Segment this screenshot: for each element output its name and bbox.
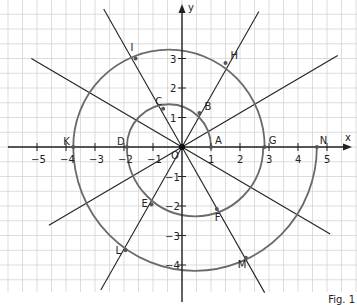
point-label-N: N [320, 135, 327, 146]
point-G [263, 145, 267, 149]
figure-caption: Fig. 1 [328, 294, 355, 305]
point-label-B: B [204, 101, 211, 112]
x-tick-label: −4 [60, 154, 75, 165]
y-tick-label: −2 [165, 201, 180, 212]
y-tick-label: −1 [165, 172, 180, 183]
origin-point [179, 144, 185, 150]
y-tick-label: −4 [165, 260, 180, 271]
y-tick-label: 3 [170, 54, 176, 65]
point-label-D: D [117, 136, 125, 147]
y-tick-label: 1 [170, 113, 176, 124]
point-E [150, 203, 154, 207]
y-axis-label: y [188, 2, 194, 13]
point-label-E: E [142, 198, 148, 209]
point-B [197, 111, 201, 115]
point-L [123, 248, 127, 252]
point-label-C: C [155, 96, 162, 107]
point-label-H: H [231, 50, 239, 61]
y-tick-label: 2 [170, 83, 176, 94]
point-label-M: M [238, 259, 247, 270]
point-A [209, 145, 213, 149]
spiral-diagram: −5−4−3−2−112345321−1−2−3−4 ABCDEFGHIKLMN… [0, 0, 357, 305]
point-F [215, 207, 219, 211]
point-label-A: A [215, 135, 222, 146]
x-tick-label: −5 [31, 154, 46, 165]
point-label-L: L [115, 245, 121, 256]
point-label-K: K [63, 136, 70, 147]
point-label-F: F [215, 212, 221, 223]
x-axis-arrow-icon [343, 144, 352, 151]
x-tick-label: −3 [89, 154, 104, 165]
point-N [315, 145, 319, 149]
ray-60 [182, 12, 259, 147]
x-tick-label: −2 [118, 154, 133, 165]
origin-label: O [171, 150, 179, 161]
point-C [161, 107, 165, 111]
x-tick-label: −1 [147, 154, 162, 165]
x-tick-label: 5 [324, 154, 330, 165]
y-axis-arrow-icon [179, 4, 186, 13]
x-tick-label: 3 [266, 154, 272, 165]
grid [0, 0, 357, 292]
point-label-G: G [269, 135, 277, 146]
point-label-I: I [131, 42, 134, 53]
x-axis-label: x [345, 132, 351, 143]
spiral-arc-A-D [127, 104, 211, 147]
x-tick-label: 1 [208, 154, 214, 165]
point-D [125, 145, 129, 149]
y-tick-label: −3 [165, 231, 180, 242]
point-H [224, 61, 228, 65]
ray-120 [104, 9, 182, 147]
x-tick-label: 4 [295, 154, 301, 165]
point-I [134, 57, 138, 61]
x-tick-label: 2 [237, 154, 243, 165]
point-K [71, 145, 75, 149]
